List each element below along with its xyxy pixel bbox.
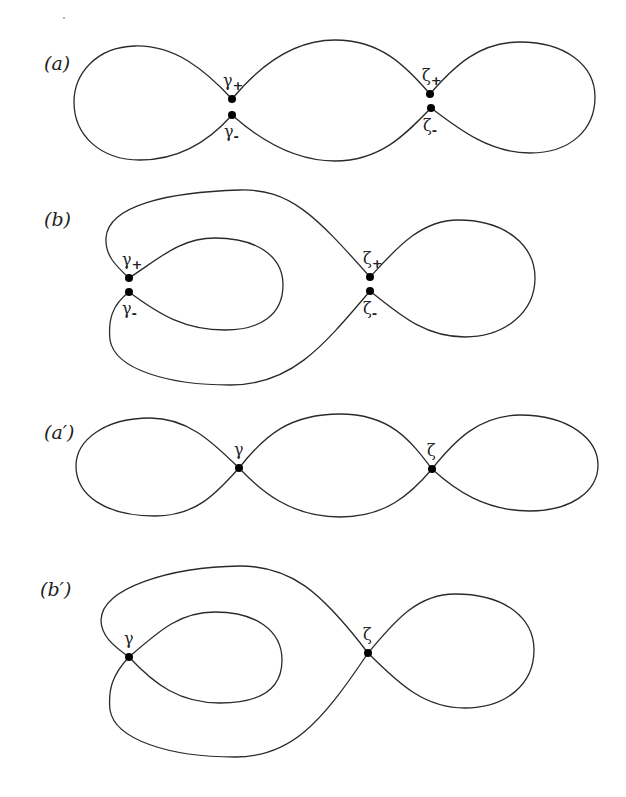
panel-a-node-zeta-minus	[427, 104, 435, 112]
panel-a-label-zeta-plus: ζ+	[422, 66, 442, 88]
panel-b-prime-label: (b′)	[40, 578, 71, 600]
panel-b-label-gamma-minus: γ-	[122, 299, 137, 321]
panel-b-prime-right-loop	[368, 594, 534, 708]
panel-a-label-gamma-plus: γ+	[223, 71, 243, 93]
panel-b-label: (b)	[44, 208, 71, 230]
panel-a-prime-middle-loop	[239, 414, 432, 517]
panel-a-prime: (a′) γ ζ	[44, 414, 598, 517]
panel-a-right-loop	[430, 42, 595, 153]
panel-b-outer-upper-arc	[106, 190, 370, 278]
panel-a-prime-node-zeta	[428, 465, 436, 473]
panel-b-node-zeta-plus	[366, 273, 374, 281]
panel-b-prime-node-gamma	[125, 653, 133, 661]
speck	[63, 17, 65, 19]
panel-b-prime-outer-upper-arc	[101, 566, 368, 657]
panel-a-prime-label-zeta: ζ	[427, 441, 436, 460]
panel-b-prime-outer-lower-arc	[110, 653, 368, 757]
panel-a-middle-upper-arc	[232, 40, 430, 99]
panel-b-inner-loop	[129, 238, 283, 330]
panel-a-node-gamma-plus	[228, 95, 236, 103]
panel-b-prime-inner-loop	[129, 612, 282, 703]
panel-b-node-zeta-minus	[366, 287, 374, 295]
panel-a-node-zeta-plus	[426, 90, 434, 98]
panel-a-prime-left-loop	[76, 418, 239, 516]
panel-a: (a) γ+ γ- ζ+ ζ-	[44, 40, 595, 161]
panel-b-label-gamma-plus: γ+	[122, 250, 142, 272]
figure-canvas: (a) γ+ γ- ζ+ ζ- (b) γ+ γ- ζ+	[0, 0, 626, 797]
panel-b-node-gamma-plus	[125, 274, 133, 282]
panel-a-prime-label-gamma: γ	[234, 440, 244, 459]
panel-a-label: (a)	[44, 52, 70, 74]
panel-b-label-zeta-minus: ζ-	[363, 299, 377, 321]
panel-b-prime-label-zeta: ζ	[363, 625, 372, 644]
panel-a-label-zeta-minus: ζ-	[423, 116, 437, 138]
panel-b-prime: (b′) γ ζ	[40, 566, 534, 757]
panel-b-node-gamma-minus	[125, 288, 133, 296]
panel-a-left-loop	[74, 46, 232, 160]
panel-b: (b) γ+ γ- ζ+ ζ-	[44, 190, 535, 385]
panel-a-prime-label: (a′)	[44, 421, 74, 443]
panel-a-middle-lower-arc	[232, 108, 431, 161]
panel-b-prime-label-gamma: γ	[124, 629, 134, 648]
panel-a-label-gamma-minus: γ-	[224, 122, 239, 144]
panel-b-right-loop	[370, 220, 535, 337]
panel-a-prime-right-loop	[432, 415, 598, 511]
panel-a-node-gamma-minus	[228, 111, 236, 119]
panel-b-label-zeta-plus: ζ+	[363, 249, 383, 271]
panel-b-prime-node-zeta	[364, 649, 372, 657]
panel-a-prime-node-gamma	[235, 464, 243, 472]
